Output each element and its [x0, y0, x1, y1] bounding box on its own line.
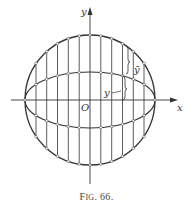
y-axis-arrow-icon: [88, 7, 93, 15]
figure-caption: FIG. 66.: [0, 191, 193, 202]
inner-height-label: y: [104, 88, 110, 98]
sphere-diagram: [0, 0, 193, 209]
y-axis-label: y: [81, 7, 87, 17]
origin-label: O: [81, 103, 89, 113]
caption-number: . 66.: [94, 191, 113, 202]
x-axis-label: x: [177, 103, 183, 113]
outer-height-brace: [126, 46, 130, 74]
outer-height-label: ȳ: [134, 65, 140, 75]
